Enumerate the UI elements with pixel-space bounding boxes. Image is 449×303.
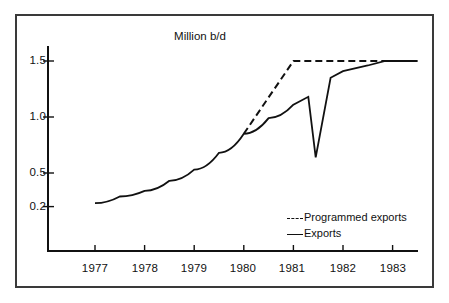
- series-line-exports: [95, 61, 417, 203]
- plot-area: [0, 0, 449, 303]
- series-line-programmed-exports: [244, 61, 418, 134]
- chart-page: Million b/d 1.5 1.0 0.5 0.2 1977 1978 19…: [0, 0, 449, 303]
